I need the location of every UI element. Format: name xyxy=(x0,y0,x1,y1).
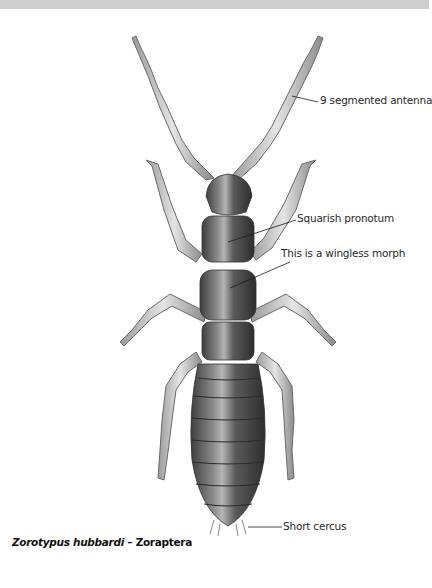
mesothorax xyxy=(200,270,256,320)
metathorax xyxy=(202,322,254,360)
label-cercus: Short cercus xyxy=(283,520,346,532)
caption-species: Zorotypus hubbardi xyxy=(12,536,124,548)
label-antenna: 9 segmented antenna xyxy=(320,94,432,106)
antenna-left xyxy=(132,36,214,180)
antenna-right xyxy=(230,36,323,180)
caption-order: Zoraptera xyxy=(136,536,192,548)
leg-middle-left xyxy=(120,294,206,346)
caption-separator: – xyxy=(124,536,136,548)
leg-front-left xyxy=(146,160,202,262)
leg-front-right xyxy=(250,160,316,260)
figure-caption: Zorotypus hubbardi – Zoraptera xyxy=(12,536,192,548)
abdomen xyxy=(191,364,265,526)
pronotum xyxy=(202,216,254,262)
label-wingless: This is a wingless morph xyxy=(281,247,405,259)
head xyxy=(206,174,252,215)
label-pronotum: Squarish pronotum xyxy=(297,212,394,224)
leg-middle-right xyxy=(250,294,336,346)
